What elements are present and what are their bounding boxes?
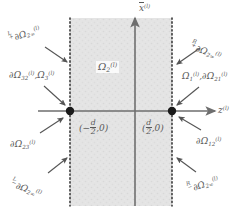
label-low-right-interface: ∂Ω12(l) [196,137,221,146]
left-coord-close: ,0) [96,123,108,133]
bottom-left-presubscript: − [11,180,17,187]
low-left-superscript: (l) [29,139,35,145]
left-node-coordinate-label: (− d 2 ,0) [79,119,108,136]
left-coord-open: (− [79,123,90,133]
label-mid-right-interface: Ω1(l),∂Ω21(l) [182,72,227,81]
top-right-presubscript: + [190,43,196,50]
mid-left-omega2: Ω [37,70,44,80]
leader-bottom-left [48,158,67,173]
right-coord-close: ,0) [152,123,164,133]
horizontal-axis-label: z(l) [218,106,229,115]
leader-top-left [45,47,67,62]
leader-low-right [179,117,201,130]
mid-right-superscript2: (l) [221,71,227,77]
left-node-dot [66,107,74,115]
vertical-axis-label: x(l) [139,4,150,13]
label-low-left-interface: ∂Ω23(l) [10,140,35,149]
mid-left-superscript2: (l) [48,70,54,76]
right-node-dot [168,107,176,115]
low-right-superscript: (l) [215,136,221,142]
label-mid-left-interface: ∂Ω32(l),Ω3(l) [9,71,54,80]
low-left-omega: Ω [15,139,22,149]
top-left-presubscript: + [8,34,14,41]
low-right-omega: Ω [201,136,208,146]
leader-bottom-right [177,158,196,172]
leader-low-left [40,118,63,133]
domain-decomposition-figure: x(l) z(l) Ω2(l) (− d 2 ,0) ( d 2 ,0) L +… [0,0,248,214]
interior-omega-superscript: (l) [110,61,117,68]
horizontal-axis-superscript: (l) [223,105,229,111]
vertical-axis-superscript: (l) [144,3,150,9]
interior-region-label: Ω2(l) [96,61,119,73]
right-node-coordinate-label: ( d 2 ,0) [142,119,164,136]
leader-mid-left [44,86,65,105]
mid-left-omega: Ω [14,70,21,80]
slab-region [70,18,172,206]
leader-mid-right [177,87,199,105]
bottom-right-presubscript: − [187,185,193,192]
